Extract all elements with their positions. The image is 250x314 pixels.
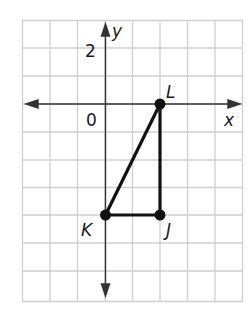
x-axis-left-arrow-icon — [26, 100, 38, 108]
y-axis-down-arrow-icon — [102, 284, 110, 296]
y-axis-up-arrow-icon — [102, 24, 110, 36]
point-L — [155, 99, 166, 110]
point-K — [100, 210, 111, 221]
y-axis-label: y — [111, 21, 123, 41]
point-K-label: K — [81, 220, 94, 240]
point-J-label: J — [163, 220, 171, 240]
x-axis-label: x — [223, 110, 235, 130]
point-J — [155, 210, 166, 221]
coordinate-plane: y x 2 0 L J K — [0, 0, 250, 314]
point-L-label: L — [166, 82, 175, 102]
origin-label: 0 — [86, 110, 97, 130]
x-axis-right-arrow-icon — [228, 100, 240, 108]
y-tick-label-2: 2 — [85, 41, 96, 61]
